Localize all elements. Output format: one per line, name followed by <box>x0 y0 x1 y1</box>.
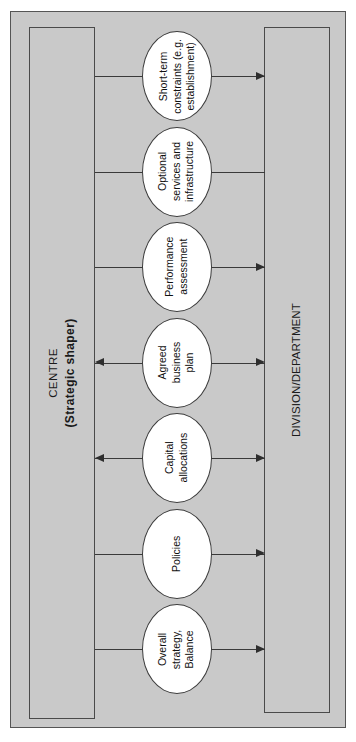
node-label-line: Agreed <box>157 342 171 383</box>
node-label-line: establishment) <box>184 39 198 114</box>
node-label-line: Overall <box>157 629 171 669</box>
connector-left-short-term-constraints <box>95 76 146 77</box>
centre-box: CENTRE (Strategic shaper) <box>29 27 95 719</box>
connector-right-optional-services <box>208 172 265 173</box>
arrowhead-right-short-term-constraints <box>256 72 265 80</box>
connector-left-performance-assessment <box>95 267 146 268</box>
node-capital-allocations: Capitalallocations <box>142 413 212 503</box>
node-label-line: constraints (e.g. <box>170 39 184 114</box>
node-label-line: Balance <box>184 629 198 669</box>
node-label-line: assessment <box>177 237 191 297</box>
node-label-performance-assessment: Performanceassessment <box>163 237 190 297</box>
node-label-optional-services: Optionalservices andinfrastructure <box>157 141 198 202</box>
diagram-root: CENTRE (Strategic shaper) DIVISION/DEPAR… <box>0 0 356 742</box>
arrowhead-right-agreed-business-plan <box>256 358 265 366</box>
node-label-line: strategy, <box>170 629 184 669</box>
node-performance-assessment: Performanceassessment <box>142 222 212 312</box>
node-overall-strategy-balance: Overallstrategy,Balance <box>142 604 212 694</box>
node-policies: Policies <box>142 509 212 599</box>
connector-left-optional-services <box>95 172 146 173</box>
node-label-line: allocations <box>177 433 191 483</box>
centre-box-label: CENTRE (Strategic shaper) <box>46 318 78 427</box>
node-label-line: plan <box>184 342 198 383</box>
connector-left-overall-strategy-balance <box>95 649 146 650</box>
arrowhead-left-agreed-business-plan <box>95 358 104 366</box>
node-label-line: services and <box>170 141 184 202</box>
division-box-label: DIVISION/DEPARTMENT <box>289 303 305 437</box>
arrowhead-right-performance-assessment <box>256 263 265 271</box>
arrowhead-right-capital-allocations <box>256 454 265 462</box>
node-label-line: business <box>170 342 184 383</box>
node-label-short-term-constraints: Short-termconstraints (e.g.establishment… <box>157 39 198 114</box>
division-box: DIVISION/DEPARTMENT <box>264 27 330 713</box>
node-label-line: Policies <box>170 535 184 571</box>
node-label-line: Optional <box>157 141 171 202</box>
node-agreed-business-plan: Agreedbusinessplan <box>142 318 212 408</box>
centre-box-role: (Strategic shaper) <box>62 318 78 427</box>
node-optional-services: Optionalservices andinfrastructure <box>142 127 212 217</box>
node-label-overall-strategy-balance: Overallstrategy,Balance <box>157 629 198 669</box>
node-label-agreed-business-plan: Agreedbusinessplan <box>157 342 198 383</box>
node-label-line: Short-term <box>157 39 171 114</box>
node-label-line: Capital <box>163 433 177 483</box>
node-label-policies: Policies <box>170 535 184 571</box>
arrowhead-right-overall-strategy-balance <box>256 645 265 653</box>
node-short-term-constraints: Short-termconstraints (e.g.establishment… <box>142 31 212 121</box>
arrowhead-right-policies <box>256 549 265 557</box>
node-label-capital-allocations: Capitalallocations <box>163 433 190 483</box>
centre-box-title: CENTRE <box>46 318 62 427</box>
arrowhead-left-capital-allocations <box>95 454 104 462</box>
connector-left-policies <box>95 554 146 555</box>
node-label-line: infrastructure <box>184 141 198 202</box>
node-label-line: Performance <box>163 237 177 297</box>
